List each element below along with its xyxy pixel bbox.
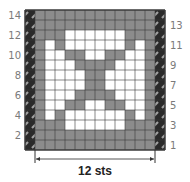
stitch-cell-contrast	[65, 10, 75, 20]
edge-stitch-left	[25, 100, 35, 110]
stitch-cell-contrast	[145, 80, 155, 90]
stitch-cell-main	[65, 30, 75, 40]
stitch-cell-contrast	[105, 140, 115, 150]
edge-stitch-right	[155, 120, 165, 130]
stitch-cell-contrast	[85, 10, 95, 20]
stitch-cell-contrast	[35, 90, 45, 100]
stitch-cell-main	[115, 70, 125, 80]
stitch-cell-contrast	[75, 130, 85, 140]
stitch-cell-contrast	[135, 10, 145, 20]
stitch-cell-contrast	[95, 140, 105, 150]
stitch-cell-main	[55, 80, 65, 90]
edge-stitch-left	[25, 80, 35, 90]
stitch-cell-contrast	[85, 20, 95, 30]
stitch-cell-contrast	[105, 90, 115, 100]
stitch-cell-main	[95, 110, 105, 120]
stitch-cell-main	[105, 40, 115, 50]
stitch-cell-main	[135, 90, 145, 100]
edge-stitch-right	[155, 70, 165, 80]
stitch-cell-contrast	[125, 30, 135, 40]
stitch-cell-contrast	[35, 140, 45, 150]
stitch-cell-contrast	[55, 40, 65, 50]
stitch-cell-main	[45, 50, 55, 60]
stitch-cell-main	[135, 60, 145, 70]
stitch-cell-contrast	[65, 50, 75, 60]
arrowhead-left-icon	[36, 157, 40, 161]
stitch-cell-main	[105, 120, 115, 130]
row-number-label: 1	[170, 140, 176, 151]
stitch-cell-contrast	[145, 10, 155, 20]
stitch-cell-contrast	[105, 60, 115, 70]
stitch-cell-contrast	[145, 90, 155, 100]
stitch-cell-contrast	[145, 70, 155, 80]
stitch-cell-contrast	[45, 30, 55, 40]
stitch-cell-main	[125, 70, 135, 80]
stitch-cell-main	[125, 50, 135, 60]
stitch-cell-contrast	[45, 120, 55, 130]
stitch-cell-contrast	[65, 130, 75, 140]
stitch-cell-contrast	[125, 110, 135, 120]
edge-stitch-left	[25, 90, 35, 100]
stitch-cell-contrast	[115, 20, 125, 30]
stitch-cell-contrast	[125, 40, 135, 50]
stitch-cell-contrast	[85, 90, 95, 100]
left-row-numbers: 1412108642	[8, 10, 21, 141]
stitch-cell-contrast	[75, 20, 85, 30]
row-number-label: 4	[15, 110, 21, 121]
stitch-cell-contrast	[105, 100, 115, 110]
stitch-cell-main	[65, 80, 75, 90]
stitch-cell-main	[65, 60, 75, 70]
edge-stitch-right	[155, 110, 165, 120]
edge-stitch-right	[155, 130, 165, 140]
stitch-cell-contrast	[85, 140, 95, 150]
stitch-cell-main	[95, 40, 105, 50]
edge-stitch-left	[25, 130, 35, 140]
stitch-cell-contrast	[135, 20, 145, 30]
stitch-cell-main	[55, 50, 65, 60]
stitch-cell-contrast	[145, 140, 155, 150]
stitch-cell-main	[115, 60, 125, 70]
stitch-cell-contrast	[125, 20, 135, 30]
stitch-cell-contrast	[75, 10, 85, 20]
stitch-cell-contrast	[145, 130, 155, 140]
stitch-cell-main	[95, 50, 105, 60]
stitch-cell-main	[105, 110, 115, 120]
stitch-cell-main	[85, 30, 95, 40]
row-number-label: 10	[8, 50, 21, 61]
stitch-cell-contrast	[75, 100, 85, 110]
stitch-cell-main	[135, 70, 145, 80]
stitch-cell-main	[85, 100, 95, 110]
row-number-label: 9	[170, 60, 176, 71]
stitch-cell-contrast	[35, 120, 45, 130]
stitch-cell-contrast	[55, 20, 65, 30]
knitting-chart: 1412108642 131197531 12 sts	[0, 0, 190, 182]
stitch-cell-contrast	[145, 50, 155, 60]
edge-stitch-left	[25, 40, 35, 50]
row-number-label: 6	[15, 90, 21, 101]
stitch-cell-contrast	[115, 10, 125, 20]
stitch-cell-main	[65, 110, 75, 120]
row-number-label: 13	[170, 20, 183, 31]
row-number-label: 3	[170, 120, 176, 131]
stitch-cell-main	[45, 100, 55, 110]
stitch-cell-contrast	[135, 130, 145, 140]
stitch-cell-contrast	[35, 40, 45, 50]
edge-stitch-right	[155, 10, 165, 20]
edge-stitch-right	[155, 40, 165, 50]
stitch-cell-main	[75, 40, 85, 50]
stitch-cell-contrast	[35, 70, 45, 80]
stitch-cell-contrast	[55, 120, 65, 130]
stitch-cell-contrast	[35, 110, 45, 120]
edge-stitch-left	[25, 140, 35, 150]
stitch-cell-main	[65, 40, 75, 50]
stitch-cell-main	[75, 70, 85, 80]
stitch-cell-contrast	[85, 70, 95, 80]
stitch-cell-main	[75, 80, 85, 90]
stitch-cell-main	[45, 80, 55, 90]
stitch-cell-main	[115, 90, 125, 100]
stitch-cell-main	[115, 40, 125, 50]
row-number-label: 7	[170, 80, 176, 91]
stitch-cell-main	[45, 40, 55, 50]
edge-stitch-right	[155, 140, 165, 150]
stitch-cell-contrast	[65, 140, 75, 150]
